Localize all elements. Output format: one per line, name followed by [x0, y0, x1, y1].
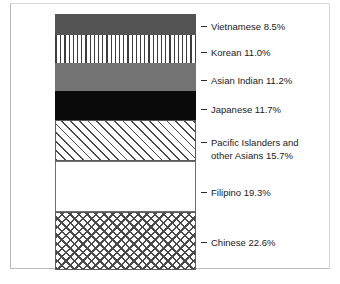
leader-dash-icon: [201, 142, 207, 143]
segment-label-text: Chinese 22.6%: [211, 236, 275, 249]
segment-label-text-line2: other Asians 15.7%: [211, 149, 299, 162]
bar-segment-chinese[interactable]: [55, 212, 196, 271]
bar-segment-asian-indian[interactable]: [55, 63, 196, 91]
segment-label-text: Asian Indian 11.2%: [211, 74, 292, 87]
segment-label-vietnamese[interactable]: Vietnamese 8.5%: [201, 20, 285, 33]
bar-segment-vietnamese[interactable]: [55, 14, 196, 35]
stacked-bar-chart: Vietnamese 8.5% Korean 11.0% Asian India…: [0, 0, 340, 284]
segment-label-text-line1: Pacific Islanders and: [211, 137, 299, 148]
leader-dash-icon: [201, 26, 207, 27]
segment-label-pacific-islanders-other-asians[interactable]: Pacific Islanders and other Asians 15.7%: [201, 136, 299, 162]
leader-dash-icon: [201, 242, 207, 243]
leader-dash-icon: [201, 80, 207, 81]
stacked-bar-column: [55, 14, 196, 270]
segment-label-text: Vietnamese 8.5%: [211, 20, 285, 33]
bar-segment-korean[interactable]: [55, 35, 196, 63]
segment-label-text: Filipino 19.3%: [211, 186, 271, 199]
segment-label-asian-indian[interactable]: Asian Indian 11.2%: [201, 74, 292, 87]
leader-dash-icon: [201, 192, 207, 193]
segment-label-korean[interactable]: Korean 11.0%: [201, 46, 271, 59]
segment-label-chinese[interactable]: Chinese 22.6%: [201, 236, 275, 249]
segment-label-japanese[interactable]: Japanese 11.7%: [201, 103, 281, 116]
leader-dash-icon: [201, 52, 207, 53]
segment-label-filipino[interactable]: Filipino 19.3%: [201, 186, 271, 199]
segment-label-text: Japanese 11.7%: [211, 103, 281, 116]
bar-segment-japanese[interactable]: [55, 91, 196, 120]
segment-label-text: Korean 11.0%: [211, 46, 271, 59]
bar-segment-filipino[interactable]: [55, 161, 196, 211]
bar-segment-pacific-islanders-other-asians[interactable]: [55, 120, 196, 161]
leader-dash-icon: [201, 109, 207, 110]
